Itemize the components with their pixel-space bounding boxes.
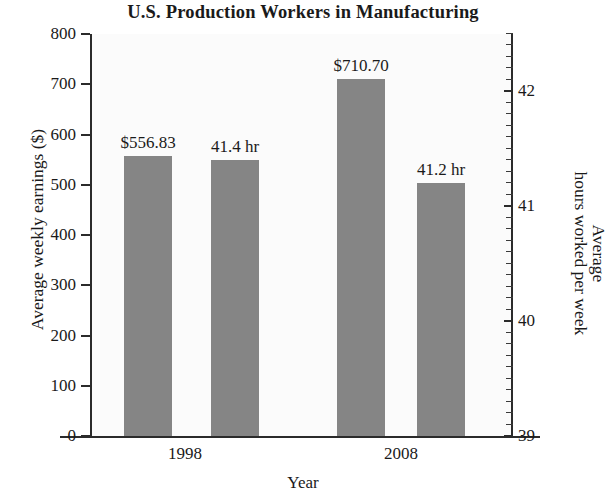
y-axis-title-right-line1: Average xyxy=(590,83,606,423)
bar-label-1998-earnings: $556.83 xyxy=(98,134,198,151)
left-tick-label-800: 800 xyxy=(14,25,76,42)
bar-2008-earnings[interactable] xyxy=(337,79,385,436)
bar-label-2008-hours: 41.2 hr xyxy=(391,161,491,178)
y-axis-title-left: Average weekly earnings ($) xyxy=(27,60,48,400)
left-tick-300 xyxy=(81,284,90,286)
left-tick-0 xyxy=(81,435,90,437)
bar-1998-earnings[interactable] xyxy=(124,156,172,436)
left-tick-400 xyxy=(81,234,90,236)
left-tick-label-0: 0 xyxy=(14,427,76,444)
right-tick-label-42: 42 xyxy=(518,82,552,99)
x-axis-title: Year xyxy=(0,473,606,493)
bar-1998-hours[interactable] xyxy=(211,160,259,436)
category-label-1998: 1998 xyxy=(125,444,245,464)
y-axis-title-right: Average hours worked per week xyxy=(572,83,606,423)
bar-label-2008-earnings: $710.70 xyxy=(311,57,411,74)
bars-layer xyxy=(90,34,512,436)
right-tick-label-40: 40 xyxy=(518,312,552,329)
category-label-2008: 2008 xyxy=(341,444,461,464)
left-tick-500 xyxy=(81,184,90,186)
left-tick-700 xyxy=(81,83,90,85)
y-axis-title-right-line2: hours worked per week xyxy=(572,83,590,423)
bar-label-1998-hours: 41.4 hr xyxy=(185,138,285,155)
left-tick-600 xyxy=(81,134,90,136)
chart-root: U.S. Production Workers in Manufacturing… xyxy=(0,0,606,502)
right-tick-label-41: 41 xyxy=(518,197,552,214)
left-tick-100 xyxy=(81,385,90,387)
right-tick-label-39: 39 xyxy=(518,427,552,444)
left-tick-800 xyxy=(81,33,90,35)
bottom-axis-line xyxy=(60,436,540,438)
left-tick-200 xyxy=(81,335,90,337)
bar-2008-hours[interactable] xyxy=(417,183,465,436)
chart-title: U.S. Production Workers in Manufacturing xyxy=(0,2,606,23)
